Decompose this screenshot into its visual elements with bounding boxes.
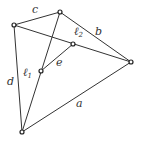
node-l2 [71,42,75,46]
node-l1 [39,69,43,73]
label-d: d [7,75,14,88]
node-v3 [129,60,133,64]
graph-diagram: c b e d a ℓ1 ℓ2 [0,0,143,145]
node-v2 [58,10,62,14]
edge-d [14,25,22,132]
label-l1-sub: 1 [28,72,32,80]
node-v1 [12,23,16,27]
label-a: a [76,97,83,110]
label-l1: ℓ1 [23,66,32,80]
node-v4 [20,130,24,134]
label-l2-sub: 2 [78,31,84,39]
label-c: c [32,3,38,16]
label-e: e [56,56,63,69]
svg-text:ℓ1: ℓ1 [23,66,32,80]
label-b: b [95,25,102,38]
